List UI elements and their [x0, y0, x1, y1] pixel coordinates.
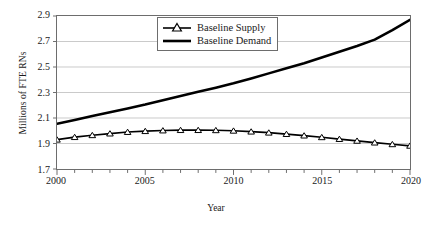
legend-label-baseline-supply: Baseline Supply	[197, 22, 266, 34]
legend-item-baseline-demand: Baseline Demand	[162, 34, 271, 47]
x-tick-label: 2005	[122, 175, 168, 186]
legend-label-baseline-demand: Baseline Demand	[197, 35, 271, 47]
legend-item-baseline-supply: Baseline Supply	[162, 21, 271, 34]
chart-figure: Millions of FTE RNs Year 2.92.72.52.32.1…	[0, 0, 432, 227]
legend-key-supply-line-triangle-icon	[162, 22, 192, 34]
x-tick-label: 2010	[211, 175, 257, 186]
legend-key-demand-line-icon	[162, 35, 192, 47]
x-tick-label: 2015	[299, 175, 345, 186]
x-tick-label: 2000	[33, 175, 79, 186]
x-tick-label: 2020	[388, 175, 432, 186]
chart-legend: Baseline Supply Baseline Demand	[157, 17, 278, 51]
